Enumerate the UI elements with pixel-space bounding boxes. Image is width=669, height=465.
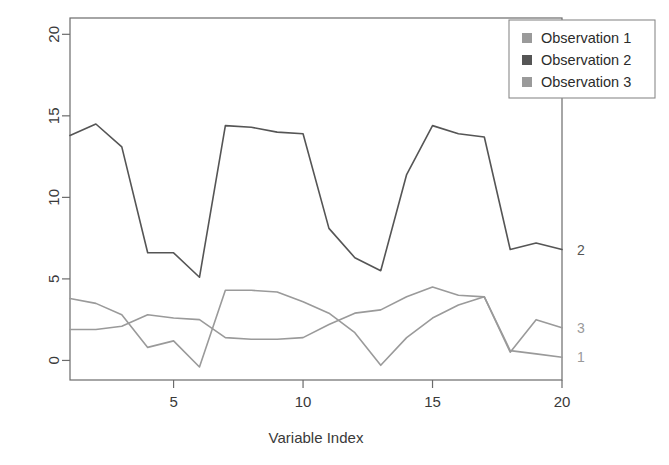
x-tick-label: 15 <box>424 393 441 410</box>
chart-container: 05101520 5101520 123 Variable Index Obse… <box>0 0 669 465</box>
y-tick-label: 20 <box>46 26 63 43</box>
chart-legend[interactable]: Observation 1Observation 2Observation 3 <box>509 20 655 98</box>
x-tick-label: 5 <box>169 393 177 410</box>
series-end-label-1: 1 <box>577 349 585 365</box>
data-series-group <box>70 124 562 367</box>
series-line-3 <box>70 290 562 367</box>
y-tick-label: 0 <box>46 356 63 364</box>
x-tick-label: 20 <box>554 393 571 410</box>
y-axis-tick-labels: 05101520 <box>46 26 63 365</box>
y-tick-label: 5 <box>46 275 63 283</box>
series-end-label-2: 2 <box>577 242 585 258</box>
y-axis-ticks <box>62 34 70 360</box>
x-axis-title: Variable Index <box>269 429 364 446</box>
series-end-label-3: 3 <box>577 320 585 336</box>
legend-label-3[interactable]: Observation 3 <box>541 74 631 90</box>
series-end-labels: 123 <box>577 242 585 366</box>
x-tick-label: 10 <box>295 393 312 410</box>
y-tick-label: 10 <box>46 189 63 206</box>
line-chart: 05101520 5101520 123 Variable Index Obse… <box>0 0 669 465</box>
legend-swatch-1[interactable] <box>522 33 532 43</box>
legend-swatch-3[interactable] <box>522 77 532 87</box>
legend-label-2[interactable]: Observation 2 <box>541 52 631 68</box>
series-line-1 <box>70 287 562 357</box>
series-line-2 <box>70 124 562 277</box>
plot-frame <box>70 18 562 380</box>
x-axis-tick-labels: 5101520 <box>169 393 570 410</box>
y-tick-label: 15 <box>46 107 63 124</box>
x-axis-ticks <box>174 380 562 388</box>
legend-label-1[interactable]: Observation 1 <box>541 30 631 46</box>
legend-swatch-2[interactable] <box>522 55 532 65</box>
